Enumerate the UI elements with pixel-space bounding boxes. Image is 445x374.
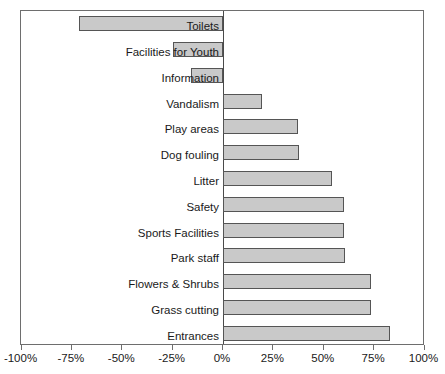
- axis-tick: [222, 345, 223, 350]
- axis-tick-label: 75%: [362, 352, 385, 364]
- category-label: Information: [21, 68, 223, 83]
- category-label: Toilets: [21, 16, 223, 31]
- category-label-text: Entrances: [167, 329, 223, 344]
- category-label: Facilities for Youth: [21, 42, 223, 57]
- axis-tick: [424, 345, 425, 350]
- category-label: Flowers & Shrubs: [21, 274, 223, 289]
- plot-area: ToiletsFacilities for YouthInformationVa…: [20, 10, 424, 345]
- category-label: Grass cutting: [21, 300, 223, 315]
- axis-tick-label: -25%: [158, 352, 185, 364]
- category-label-text: Facilities for Youth: [126, 45, 223, 60]
- category-label-text: Safety: [186, 200, 223, 215]
- category-label: Sports Facilities: [21, 223, 223, 238]
- bar-chart: ToiletsFacilities for YouthInformationVa…: [0, 0, 445, 374]
- category-label-text: Information: [161, 71, 223, 86]
- category-label-text: Litter: [193, 174, 223, 189]
- axis-tick-label: -50%: [108, 352, 135, 364]
- category-label-text: Grass cutting: [151, 303, 223, 318]
- category-label: Safety: [21, 197, 223, 212]
- axis-tick: [172, 345, 173, 350]
- axis-tick-label: 100%: [409, 352, 438, 364]
- category-label: Play areas: [21, 119, 223, 134]
- axis-tick-label: -100%: [4, 352, 37, 364]
- axis-tick: [121, 345, 122, 350]
- category-label-text: Flowers & Shrubs: [128, 277, 223, 292]
- axis-tick: [21, 345, 22, 350]
- axis-tick: [323, 345, 324, 350]
- category-label-text: Vandalism: [166, 97, 223, 112]
- category-label-text: Dog fouling: [161, 148, 223, 163]
- category-label-text: Toilets: [186, 19, 223, 34]
- axis-tick-label: 25%: [261, 352, 284, 364]
- axis-tick-label: 0%: [214, 352, 231, 364]
- axis-tick: [71, 345, 72, 350]
- category-label: Entrances: [21, 326, 223, 341]
- category-label: Park staff: [21, 248, 223, 263]
- category-label-text: Sports Facilities: [138, 226, 223, 241]
- axis-tick: [373, 345, 374, 350]
- category-label: Litter: [21, 171, 223, 186]
- category-label-text: Park staff: [171, 251, 223, 266]
- axis-tick: [272, 345, 273, 350]
- category-label-text: Play areas: [165, 122, 223, 137]
- category-label: Dog fouling: [21, 145, 223, 160]
- x-axis: -100%-75%-50%-25%0%25%50%75%100%: [20, 345, 424, 374]
- axis-tick-label: -75%: [57, 352, 84, 364]
- axis-tick-label: 50%: [311, 352, 334, 364]
- category-label: Vandalism: [21, 94, 223, 109]
- category-labels-layer: ToiletsFacilities for YouthInformationVa…: [21, 11, 423, 344]
